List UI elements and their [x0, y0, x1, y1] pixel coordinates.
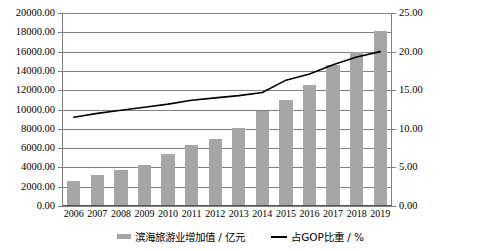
legend-label-line: 占GOP比重 / %: [291, 229, 364, 244]
right-axis-tickmark: [392, 90, 396, 91]
x-axis-tick: 2009: [133, 209, 157, 219]
bar-swatch-icon: [117, 234, 131, 239]
legend-item-line: 占GOP比重 / %: [271, 229, 364, 244]
x-axis-tick: 2007: [86, 209, 110, 219]
right-axis-tickmark: [392, 13, 396, 14]
line-series: [62, 13, 392, 206]
left-axis-tick: 18000.00: [16, 27, 55, 38]
left-axis-tick: 14000.00: [16, 66, 55, 77]
legend-item-bar: 滨海旅游业增加值 / 亿元: [117, 229, 245, 244]
left-axis-tick: 0.00: [37, 201, 55, 212]
legend-label-bar: 滨海旅游业增加值 / 亿元: [135, 229, 245, 244]
x-axis-tick: 2006: [62, 209, 86, 219]
x-axis-tick: 2012: [203, 209, 227, 219]
x-axis-tick: 2019: [368, 209, 392, 219]
left-axis-tick: 10000.00: [16, 105, 55, 116]
x-axis-tick: 2010: [156, 209, 180, 219]
right-axis-tick: 10.00: [399, 124, 423, 135]
left-axis-tick: 4000.00: [21, 162, 55, 173]
right-axis-tick: 0.00: [399, 201, 417, 212]
line-swatch-icon: [271, 236, 287, 238]
combo-chart: 0.002000.004000.006000.008000.0010000.00…: [0, 0, 481, 251]
x-axis-tick: 2008: [109, 209, 133, 219]
left-axis-tick: 8000.00: [21, 124, 55, 135]
x-axis-tick: 2014: [251, 209, 275, 219]
left-axis-tick: 12000.00: [16, 85, 55, 96]
right-axis-tickmark: [392, 206, 396, 207]
right-axis-tick: 25.00: [399, 8, 423, 19]
x-axis-tick: 2016: [298, 209, 322, 219]
chart-legend: 滨海旅游业增加值 / 亿元 占GOP比重 / %: [0, 229, 481, 244]
percentage-line: [74, 52, 380, 118]
x-axis-tick: 2018: [345, 209, 369, 219]
left-axis-tick: 20000.00: [16, 8, 55, 19]
left-axis-tick: 16000.00: [16, 47, 55, 58]
left-axis-tick: 6000.00: [21, 143, 55, 154]
right-axis-tick: 20.00: [399, 47, 423, 58]
x-axis-tick: 2017: [321, 209, 345, 219]
left-axis-tick: 2000.00: [21, 182, 55, 193]
right-axis-tickmark: [392, 52, 396, 53]
x-axis-tick: 2013: [227, 209, 251, 219]
right-axis-tick: 5.00: [399, 162, 417, 173]
right-axis-tick: 15.00: [399, 85, 423, 96]
right-axis-tickmark: [392, 167, 396, 168]
right-axis-tickmark: [392, 129, 396, 130]
x-axis-tick: 2015: [274, 209, 298, 219]
gridline: [62, 206, 392, 207]
plot-area: [62, 13, 392, 206]
x-axis-tick: 2011: [180, 209, 204, 219]
